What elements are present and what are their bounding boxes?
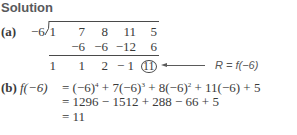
coef: 8 [82,24,108,40]
top-rule [49,21,159,22]
final-result: = 11 [62,109,85,125]
quotient-coef: 1 [30,58,56,74]
term: + 11(−6) + 5 [191,80,260,95]
quotient-coef: − 1 [108,58,134,74]
function-call: f(−6) [20,80,48,96]
remainder-annotation: R = f(−6) [215,59,258,71]
coef: 1 [30,24,56,40]
remainder: 11 [141,58,157,74]
term: + 7(−6) [99,80,142,95]
sum-rule [49,55,159,56]
term: = (−6) [62,80,95,95]
quotient-coef: 2 [82,58,108,74]
part-a-label: (a) [1,24,16,40]
term: + 8(−6) [145,80,188,95]
solution-heading: Solution [1,0,53,15]
product: 6 [131,39,157,55]
remainder-circle: 11 [141,60,157,73]
part-b-label: (b) [1,80,17,96]
product: −6 [82,39,108,55]
coef: 5 [131,24,157,40]
numeric-sum: = 1296 − 1512 + 288 − 66 + 5 [62,94,219,110]
